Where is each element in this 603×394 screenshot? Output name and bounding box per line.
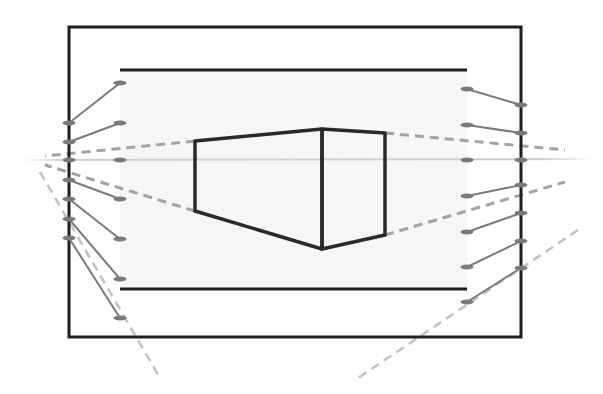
left-outer-tick [63,216,76,221]
right-outer-tick [515,210,528,215]
left-inner-tick [114,276,127,281]
diagram-canvas [0,0,603,394]
left-inner-tick [114,236,127,241]
right-inner-tick [461,299,474,304]
right-inner-tick [461,193,474,198]
right-outer-tick [515,182,528,187]
right-inner-tick [461,264,474,269]
outer-frame-left-fill [71,29,120,336]
left-outer-tick [63,120,76,125]
right-scale-connector [467,268,521,302]
right-inner-tick [461,229,474,234]
perspective-diagram [0,0,603,394]
right-scale-connector [467,241,521,267]
picture-plane-fill [120,70,467,289]
right-scale-connector [467,213,521,232]
right-scale-connector [467,185,521,196]
right-outer-tick [515,265,528,270]
right-outer-tick [515,157,528,162]
right-scale-connector [467,89,521,105]
left-inner-tick [114,196,127,201]
left-inner-tick [114,315,127,320]
left-outer-tick [63,157,76,162]
right-inner-tick [461,86,474,91]
left-outer-tick [63,139,76,144]
right-scale-connector [467,125,521,133]
left-outer-tick [63,177,76,182]
right-outer-tick [515,102,528,107]
right-outer-tick [515,130,528,135]
right-inner-tick [461,157,474,162]
left-inner-tick [114,120,127,125]
right-outer-tick [515,238,528,243]
right-inner-tick [461,122,474,127]
left-inner-tick [114,157,127,162]
left-outer-tick [63,196,76,201]
left-inner-tick [114,80,127,85]
left-outer-tick [63,235,76,240]
